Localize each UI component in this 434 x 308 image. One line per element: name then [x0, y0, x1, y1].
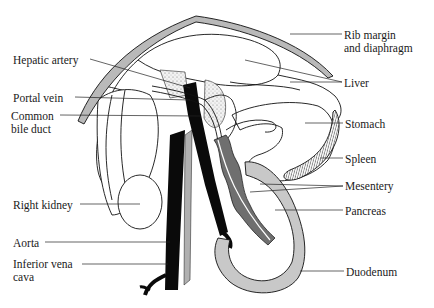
label-spleen: Spleen: [345, 153, 376, 165]
label-aorta: Aorta: [13, 237, 39, 249]
label-rib-margin-line2: and diaphragm: [344, 42, 413, 54]
label-rib-margin-line1: Rib margin: [344, 29, 396, 41]
label-mesentery: Mesentery: [345, 180, 394, 192]
label-inferior-vena-cava-line2: cava: [13, 271, 34, 283]
label-common-bile-duct-line1: Common: [11, 110, 54, 122]
anatomy-diagram: Hepatic artery Portal vein Common bile d…: [0, 0, 434, 308]
aorta-shape: [165, 130, 185, 290]
label-liver: Liver: [344, 77, 369, 89]
label-hepatic-artery: Hepatic artery: [13, 54, 78, 66]
label-common-bile-duct-line2: bile duct: [11, 123, 51, 135]
label-right-kidney: Right kidney: [13, 199, 73, 211]
label-portal-vein: Portal vein: [13, 92, 63, 104]
label-stomach: Stomach: [345, 118, 385, 130]
label-pancreas: Pancreas: [345, 205, 386, 217]
label-inferior-vena-cava-line1: Inferior vena: [13, 258, 73, 270]
label-duodenum: Duodenum: [346, 266, 397, 278]
right-kidney-shape: [118, 175, 162, 229]
stipple-tissue: [160, 70, 188, 98]
